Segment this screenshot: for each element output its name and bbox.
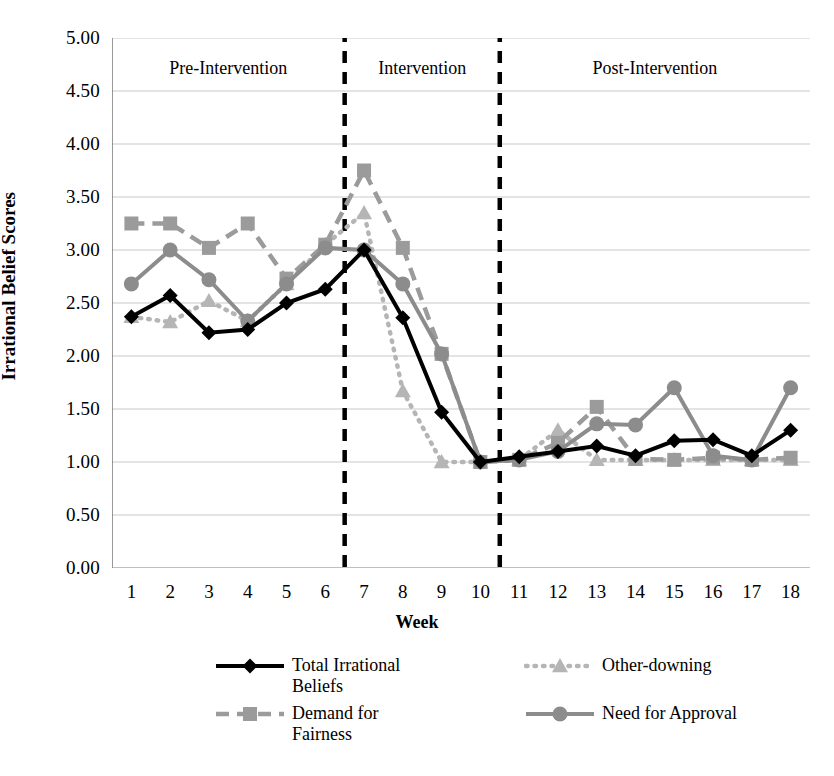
legend-key-diamond-icon <box>214 658 286 674</box>
plot-area <box>112 38 810 568</box>
legend-item[interactable]: Other-downing <box>524 655 712 676</box>
x-tick-label: 5 <box>267 582 307 601</box>
x-tick-label: 2 <box>150 582 190 601</box>
y-axis-title: Irrational Belief Scores <box>0 192 20 381</box>
y-tick-label: 2.00 <box>38 346 100 365</box>
x-tick-label: 15 <box>654 582 694 601</box>
y-tick-label: 2.50 <box>38 293 100 312</box>
legend-key-triangle-icon <box>524 658 596 674</box>
x-tick-label: 3 <box>189 582 229 601</box>
legend-label: Need for Approval <box>602 703 737 724</box>
chart-figure: Irrational Belief Scores 0.000.501.001.5… <box>0 0 834 776</box>
x-tick-label: 10 <box>460 582 500 601</box>
x-tick-label: 8 <box>383 582 423 601</box>
legend-key-square-icon <box>214 706 286 722</box>
x-tick-label: 1 <box>111 582 151 601</box>
y-tick-label: 1.50 <box>38 399 100 418</box>
legend-item[interactable]: Demand for Fairness <box>214 703 442 745</box>
legend-key-circle-icon <box>524 706 596 722</box>
x-tick-label: 14 <box>616 582 656 601</box>
x-tick-label: 11 <box>499 582 539 601</box>
y-tick-label: 0.50 <box>38 505 100 524</box>
x-tick-label: 9 <box>422 582 462 601</box>
legend-item[interactable]: Total Irrational Beliefs <box>214 655 442 697</box>
x-tick-label: 18 <box>771 582 811 601</box>
chart-legend: Total Irrational BeliefsOther-downingDem… <box>214 655 814 765</box>
x-tick-label: 17 <box>732 582 772 601</box>
legend-item[interactable]: Need for Approval <box>524 703 737 724</box>
legend-label: Demand for Fairness <box>292 703 442 745</box>
y-tick-label: 1.00 <box>38 452 100 471</box>
x-tick-label: 16 <box>693 582 733 601</box>
x-tick-label: 4 <box>228 582 268 601</box>
legend-label: Other-downing <box>602 655 712 676</box>
y-tick-label: 4.00 <box>38 134 100 153</box>
y-tick-label: 3.00 <box>38 240 100 259</box>
y-tick-label: 4.50 <box>38 81 100 100</box>
y-tick-label: 5.00 <box>38 28 100 47</box>
x-tick-label: 6 <box>305 582 345 601</box>
x-tick-label: 12 <box>538 582 578 601</box>
y-tick-label: 0.00 <box>38 558 100 577</box>
x-axis-title: Week <box>0 612 834 633</box>
x-tick-label: 7 <box>344 582 384 601</box>
chart-canvas <box>112 38 810 568</box>
y-tick-label: 3.50 <box>38 187 100 206</box>
legend-label: Total Irrational Beliefs <box>292 655 442 697</box>
x-tick-label: 13 <box>577 582 617 601</box>
